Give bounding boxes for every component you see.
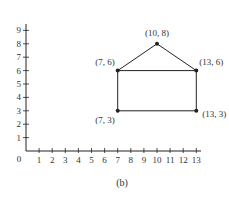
y-tick-label: 8 xyxy=(17,39,22,49)
vertex-point xyxy=(116,109,120,113)
y-tick-label: 5 xyxy=(17,79,22,89)
figure-caption: (b) xyxy=(116,177,128,189)
x-tick-label: 9 xyxy=(142,155,147,165)
vertex-point xyxy=(155,42,159,46)
x-tick-label: 8 xyxy=(129,155,134,165)
x-tick-label: 10 xyxy=(153,155,163,165)
vertex-point xyxy=(194,69,198,73)
x-tick-label: 2 xyxy=(50,155,55,165)
y-tick-label: 6 xyxy=(17,66,22,76)
house-diagram: 0 12345678910111213 123456789 (7, 3)(7, … xyxy=(0,0,229,199)
x-tick-label: 4 xyxy=(76,155,81,165)
edge xyxy=(118,44,157,71)
vertex-label: (13, 3) xyxy=(202,109,226,119)
x-tick-label: 3 xyxy=(63,155,68,165)
x-tick-label: 12 xyxy=(179,155,188,165)
vertex-label: (13, 6) xyxy=(199,57,223,67)
x-tick-label: 1 xyxy=(37,155,42,165)
y-tick-label: 9 xyxy=(17,25,22,35)
y-tick-label: 3 xyxy=(17,106,22,116)
x-tick-label: 5 xyxy=(89,155,94,165)
x-tick-label: 6 xyxy=(102,155,107,165)
vertex-point xyxy=(116,69,120,73)
vertex-point xyxy=(194,109,198,113)
vertex-label: (10, 8) xyxy=(145,28,169,38)
vertex-label: (7, 6) xyxy=(95,57,115,67)
y-tick-label: 7 xyxy=(17,52,22,62)
x-tick-label: 11 xyxy=(166,155,175,165)
vertex-label: (7, 3) xyxy=(95,115,115,125)
edge xyxy=(157,44,196,71)
y-tick-label: 2 xyxy=(17,119,22,129)
x-tick-label: 7 xyxy=(115,155,120,165)
x-tick-label: 13 xyxy=(192,155,202,165)
y-tick-label: 4 xyxy=(17,92,22,102)
origin-label: 0 xyxy=(17,154,22,164)
y-tick-label: 1 xyxy=(17,133,22,143)
